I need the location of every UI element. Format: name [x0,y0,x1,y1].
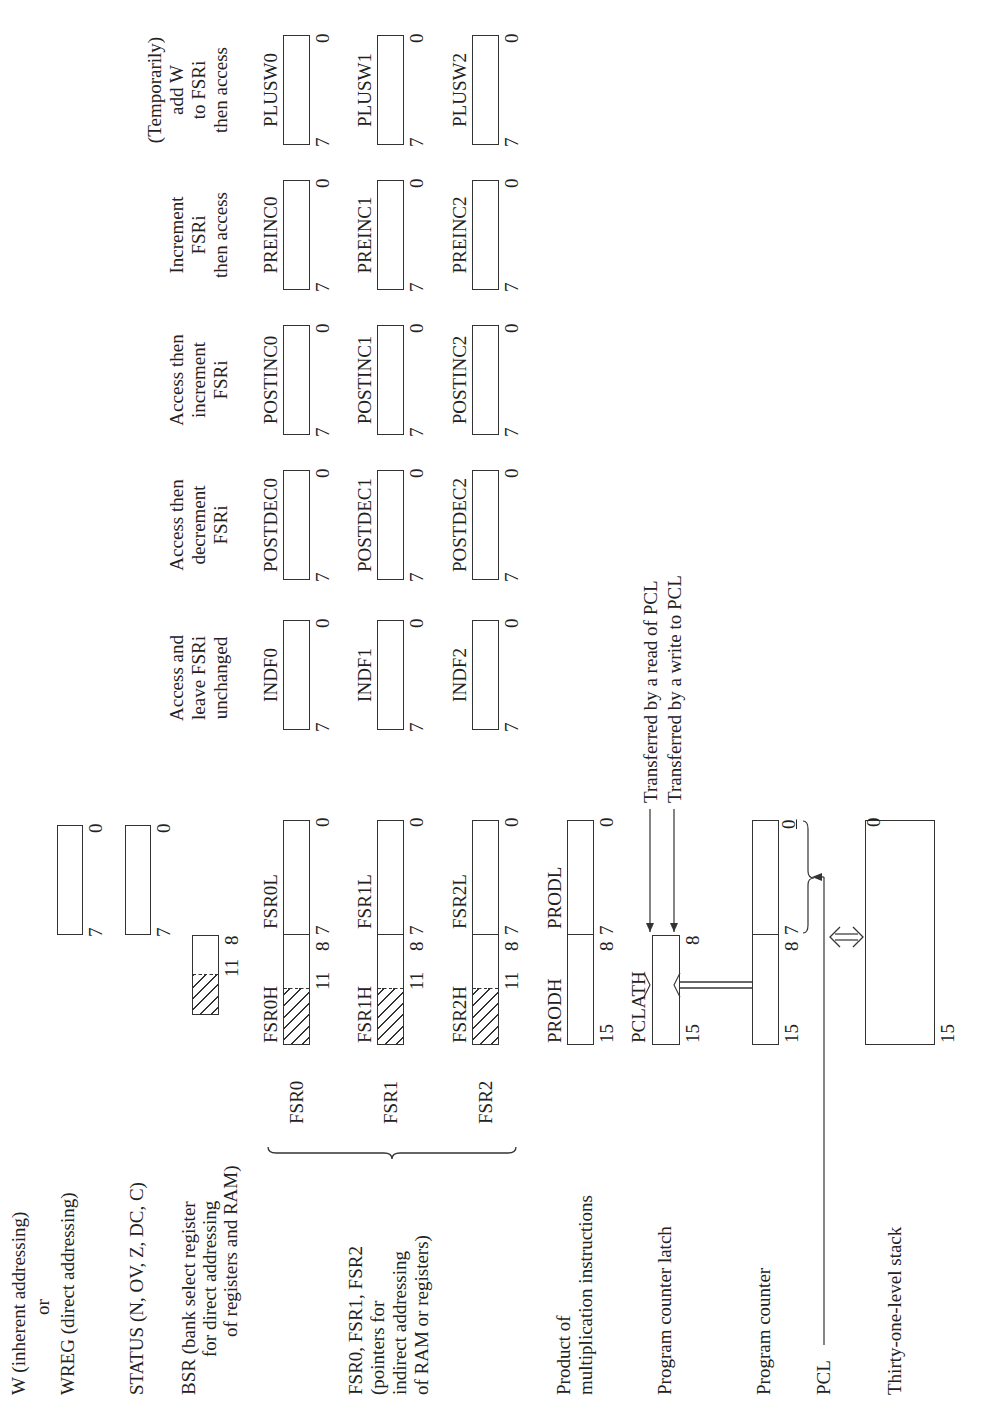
col-indf-header-1: Access and [166,613,187,743]
col-plusw-header-4: then access [210,25,231,155]
col-postdec-header-1: Access then [166,460,187,590]
postinc0-label: POSTINC0 [260,320,281,440]
plusw2-bit-lo: 0 [502,34,522,44]
col-preinc-header-1: Increment [166,170,187,300]
col-plusw-header-1: (Temporarily) [144,25,165,155]
col-preinc-header-3: then access [210,170,231,300]
preinc0-label: PREINC0 [260,175,281,295]
indf2-bit-lo: 0 [502,619,522,629]
col-postdec-header-3: FSRi [210,460,231,590]
postdec2-bit-lo: 0 [502,469,522,479]
postdec1-bit-lo: 0 [407,469,427,479]
plusw1-bit-hi: 7 [407,138,427,148]
indf1-bit-hi: 7 [407,723,427,733]
plusw1-register [377,35,404,145]
col-plusw-header-3: to FSRi [188,25,209,155]
postinc1-bit-hi: 7 [407,428,427,438]
plusw2-label: PLUSW2 [449,30,470,150]
postdec1-register [377,470,404,580]
postdec0-bit-hi: 7 [313,573,333,583]
col-postinc-header-3: FSRi [210,315,231,445]
indf0-label: INDF0 [260,620,281,730]
preinc1-register [377,180,404,290]
indf0-bit-hi: 7 [313,723,333,733]
indf2-register [472,620,499,730]
postinc0-register [283,325,310,435]
postdec2-bit-hi: 7 [502,573,522,583]
preinc1-bit-hi: 7 [407,283,427,293]
postdec2-register [472,470,499,580]
postinc1-label: POSTINC1 [354,320,375,440]
plusw2-register [472,35,499,145]
postdec1-bit-hi: 7 [407,573,427,583]
indf1-register [377,620,404,730]
indf2-bit-hi: 7 [502,723,522,733]
col-indf-header-3: unchanged [210,613,231,743]
postinc2-bit-lo: 0 [502,324,522,334]
preinc0-bit-hi: 7 [313,283,333,293]
postinc2-label: POSTINC2 [449,320,470,440]
indf1-bit-lo: 0 [407,619,427,629]
preinc2-register [472,180,499,290]
plusw0-bit-hi: 7 [313,138,333,148]
col-indf-header-2: leave FSRi [188,613,209,743]
register-diagram: W (inherent addressing) or WREG (direct … [0,0,984,1415]
indf1-label: INDF1 [354,620,375,730]
postinc1-register [377,325,404,435]
preinc2-label: PREINC2 [449,175,470,295]
indf0-bit-lo: 0 [313,619,333,629]
preinc0-register [283,180,310,290]
preinc2-bit-lo: 0 [502,179,522,189]
plusw2-bit-hi: 7 [502,138,522,148]
plusw0-register [283,35,310,145]
postinc2-bit-hi: 7 [502,428,522,438]
postdec0-bit-lo: 0 [313,469,333,479]
indf2-label: INDF2 [449,620,470,730]
postdec1-label: POSTDEC1 [354,465,375,585]
col-postdec-header-2: decrement [188,460,209,590]
postinc0-bit-hi: 7 [313,428,333,438]
preinc0-bit-lo: 0 [313,179,333,189]
col-preinc-header-2: FSRi [188,170,209,300]
indf0-register [283,620,310,730]
preinc1-bit-lo: 0 [407,179,427,189]
plusw1-label: PLUSW1 [354,30,375,150]
plusw0-label: PLUSW0 [260,30,281,150]
postdec0-label: POSTDEC0 [260,465,281,585]
col-postinc-header-2: increment [188,315,209,445]
postinc1-bit-lo: 0 [407,324,427,334]
postinc2-register [472,325,499,435]
col-postinc-header-1: Access then [166,315,187,445]
preinc1-label: PREINC1 [354,175,375,295]
preinc2-bit-hi: 7 [502,283,522,293]
col-plusw-header-2: add W [166,25,187,155]
postinc0-bit-lo: 0 [313,324,333,334]
postdec0-register [283,470,310,580]
plusw0-bit-lo: 0 [313,34,333,44]
plusw1-bit-lo: 0 [407,34,427,44]
postdec2-label: POSTDEC2 [449,465,470,585]
